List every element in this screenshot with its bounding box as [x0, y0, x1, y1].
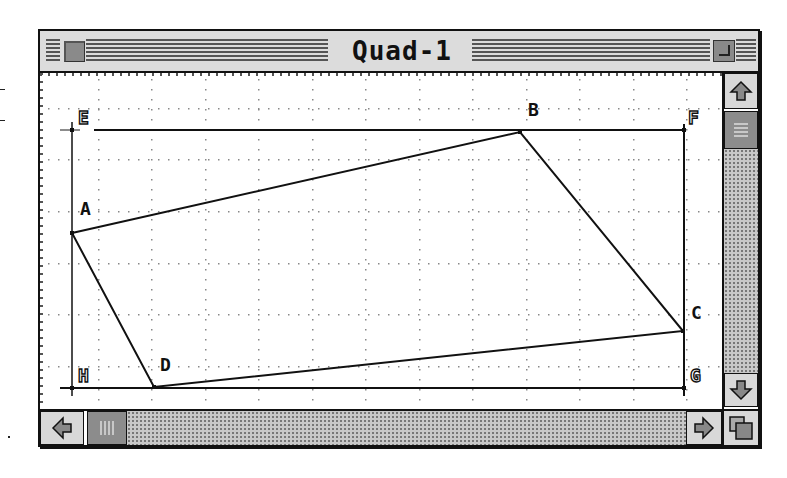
zoom-box[interactable] [710, 38, 736, 63]
grid-dot [668, 211, 670, 213]
point-B[interactable] [518, 130, 522, 134]
point-G[interactable] [682, 386, 686, 390]
grid-dot [158, 263, 160, 265]
grid-dot [178, 108, 180, 110]
point-label-H[interactable]: H [78, 365, 89, 386]
grid-dot [688, 314, 690, 316]
drawing-canvas[interactable]: EFGHABCD [40, 73, 722, 409]
grid-dot [428, 366, 430, 368]
grid-dot [498, 263, 500, 265]
horizontal-scroll-thumb[interactable] [87, 411, 127, 445]
grid-dot [205, 359, 207, 361]
grid-dot [408, 211, 410, 213]
scroll-down-button[interactable] [724, 373, 758, 407]
grid-dot [648, 263, 650, 265]
grid-dot [472, 179, 474, 181]
grid-dot [608, 263, 610, 265]
grid-dot [205, 329, 207, 331]
grid-dot [478, 263, 480, 265]
grid-dot [419, 239, 421, 241]
scroll-right-button[interactable] [686, 411, 722, 445]
grid-dot [298, 211, 300, 213]
grid-dot [312, 209, 314, 211]
grid-dot [378, 314, 380, 316]
close-box[interactable] [60, 38, 86, 63]
title-bar[interactable]: Quad-1 [40, 31, 758, 73]
horizontal-scroll-track[interactable] [127, 411, 686, 445]
point-label-D[interactable]: D [160, 354, 171, 375]
grid-dot [428, 263, 430, 265]
grid-dot [318, 108, 320, 110]
point-label-A[interactable]: A [80, 198, 91, 219]
grid-dot [618, 211, 620, 213]
grid-dot [365, 319, 367, 321]
grid-dot [151, 249, 153, 251]
grid-dot [698, 263, 700, 265]
grid-dot [588, 263, 590, 265]
point-label-F[interactable]: F [688, 107, 699, 128]
grid-dot [228, 314, 230, 316]
vertical-scroll-track[interactable] [724, 149, 758, 373]
grid-dot [258, 399, 260, 401]
grid-dot [365, 189, 367, 191]
grid-dot [228, 159, 230, 161]
grid-dot [608, 159, 610, 161]
grid-dot [686, 319, 688, 321]
grid-dot [558, 159, 560, 161]
point-C[interactable] [681, 329, 685, 333]
grid-dot [408, 366, 410, 368]
grid-dot [526, 189, 528, 191]
grid-dot [278, 314, 280, 316]
grid-dot [686, 209, 688, 211]
grid-dot [258, 314, 260, 316]
grid-dot [178, 314, 180, 316]
grid-dot [419, 299, 421, 301]
grid-dot [472, 149, 474, 151]
point-E[interactable] [70, 128, 74, 132]
grid-dot [468, 263, 470, 265]
grid-dot [205, 299, 207, 301]
grid-dot [268, 263, 270, 265]
resize-box[interactable] [722, 409, 758, 445]
grid-dot [258, 289, 260, 291]
grid-dot [98, 179, 100, 181]
grid-dot [686, 159, 688, 161]
grid-dot [151, 149, 153, 151]
grid-dot [708, 159, 710, 161]
grid-dot [648, 314, 650, 316]
scroll-up-button[interactable] [724, 73, 758, 109]
grid-dot [108, 314, 110, 316]
point-label-E[interactable]: E [78, 107, 89, 128]
vertical-scroll-thumb[interactable] [724, 111, 758, 149]
grid-dot [718, 263, 720, 265]
grid-dot [578, 211, 580, 213]
vertical-scrollbar[interactable] [722, 73, 758, 409]
grid-dot [598, 159, 600, 161]
grid-dot [151, 309, 153, 311]
grid-dot [312, 89, 314, 91]
grid-dot [98, 99, 100, 101]
horizontal-scrollbar[interactable] [40, 409, 722, 445]
grid-dot [478, 314, 480, 316]
grid-dot [438, 263, 440, 265]
scroll-left-button[interactable] [40, 411, 84, 445]
point-label-C[interactable]: C [691, 302, 702, 323]
point-label-G[interactable]: G [690, 365, 701, 386]
grid-dot [138, 108, 140, 110]
geometry-sketch[interactable]: EFGHABCD [40, 73, 722, 409]
left-arrow-icon [50, 416, 74, 440]
grid-dot [528, 159, 530, 161]
point-H[interactable] [70, 386, 74, 390]
grid-dot [579, 99, 581, 101]
point-label-B[interactable]: B [528, 99, 539, 120]
grid-dot [58, 211, 60, 213]
point-D[interactable] [152, 385, 156, 389]
grid-dot [526, 269, 528, 271]
grid-dot [312, 259, 314, 261]
grid-dot [638, 159, 640, 161]
grid-dot [498, 366, 500, 368]
point-A[interactable] [70, 231, 74, 235]
quadrilateral-ABCD[interactable] [72, 132, 683, 387]
grid-dot [151, 89, 153, 91]
point-F[interactable] [682, 128, 686, 132]
